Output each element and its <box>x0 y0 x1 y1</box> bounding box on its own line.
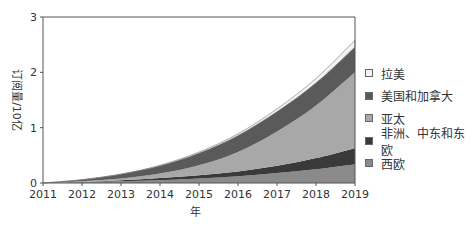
tick-label: 2015 <box>185 188 213 201</box>
tick-label: 2019 <box>341 188 369 201</box>
tick-label: 2016 <box>224 188 252 201</box>
tick-label: 3 <box>30 11 37 24</box>
x-axis-label: 年 <box>190 203 201 219</box>
area-layers <box>43 40 355 183</box>
tick-label: 2013 <box>107 188 135 201</box>
legend-item-africa-me-eastern-europe: 非洲、中东和东欧 <box>365 130 473 153</box>
legend-item-us-canada: 美国和加拿大 <box>365 85 473 108</box>
legend-label: 西欧 <box>381 155 405 172</box>
tick-label: 2 <box>30 66 37 79</box>
legend: 拉美 美国和加拿大 亚太 非洲、中东和东欧 西欧 <box>365 62 473 175</box>
tick-label: 1 <box>30 122 37 135</box>
tick-label: 2017 <box>263 188 291 201</box>
legend-label: 非洲、中东和东欧 <box>381 124 473 158</box>
legend-label: 拉美 <box>381 65 405 82</box>
legend-swatch-icon <box>365 69 373 77</box>
legend-label: 美国和加拿大 <box>381 87 453 104</box>
tick-label: 0 <box>30 177 37 190</box>
tick-label: 2012 <box>68 188 96 201</box>
y-axis-label: 订阅量/10亿 <box>10 60 26 140</box>
legend-swatch-icon <box>365 137 373 145</box>
legend-swatch-icon <box>365 159 373 167</box>
tick-label: 2018 <box>302 188 330 201</box>
legend-item-latin-america: 拉美 <box>365 62 473 85</box>
legend-swatch-icon <box>365 92 373 100</box>
tick-label: 2014 <box>146 188 174 201</box>
legend-swatch-icon <box>365 114 373 122</box>
